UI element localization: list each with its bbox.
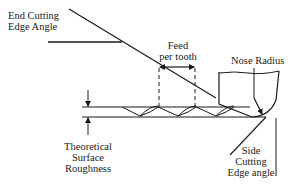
tool-top-wavy-edge [219,71,279,74]
nose-radius-arrow [254,98,262,114]
label-feed-per-tooth: Feed per tooth [153,40,203,62]
scallop-3 [196,107,234,116]
label-nose-radius: Nose Radius [231,55,284,66]
scallop-2 [158,107,196,116]
scallop-1 [122,107,158,116]
label-theoretical-surface-roughness: Theoretical Surface Roughness [60,141,116,174]
label-end-cutting-edge-angle: End Cutting Edge Angle [8,10,59,32]
label-side-cutting-edge-angle: Side Cutting Edge angle [226,145,276,178]
tool-tip-outline [219,71,279,117]
